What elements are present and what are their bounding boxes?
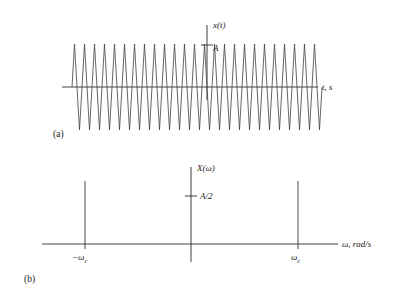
figure-container: x(t) A t, s (a) X(ω) A/2 −ωc ωc ω, rad/: [0, 0, 420, 297]
panel-b-caption: (b): [24, 274, 35, 285]
panel-a-vertical-axis-label: x(t): [212, 20, 226, 30]
panel-b-positive-frequency-subscript: c: [297, 257, 300, 264]
panel-a-group: x(t) A t, s (a): [53, 20, 333, 140]
panel-b-vertical-axis-label: X(ω): [196, 163, 215, 173]
panel-b-amplitude-label: A/2: [199, 191, 213, 201]
panel-b-positive-frequency-label: ωc: [291, 252, 300, 264]
panel-b-horizontal-axis-label: ω, rad/s: [342, 239, 372, 249]
figure-svg: x(t) A t, s (a) X(ω) A/2 −ωc ωc ω, rad/: [0, 0, 420, 297]
panel-b-negative-frequency-label: −ωc: [72, 252, 87, 264]
panel-b-negative-frequency-subscript: c: [84, 257, 87, 264]
panel-a-amplitude-label: A: [212, 43, 219, 53]
panel-a-horizontal-axis-label: t, s: [322, 82, 333, 92]
panel-a-caption: (a): [53, 129, 64, 140]
panel-b-group: X(ω) A/2 −ωc ωc ω, rad/s (b): [24, 163, 372, 285]
panel-b-negative-frequency-base: −ω: [72, 252, 84, 262]
